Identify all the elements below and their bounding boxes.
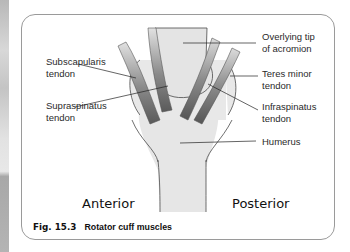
figure-caption: Fig. 15.3Rotator cuff muscles (33, 222, 172, 232)
posterior-label: Posterior (232, 196, 289, 211)
label-teres-minor-tendon: Teres minor tendon (262, 68, 312, 91)
label-subscapularis-tendon: Subscapularis tendon (46, 56, 106, 79)
label-humerus: Humerus (262, 136, 301, 148)
label-supraspinatus-tendon: Supraspinatus tendon (46, 100, 107, 123)
anterior-label: Anterior (82, 196, 134, 211)
figure-number: Fig. 15.3 (33, 222, 76, 232)
figure-title: Rotator cuff muscles (84, 222, 172, 232)
label-overlying-tip-of-acromion: Overlying tip of acromion (262, 31, 315, 54)
label-infraspinatus-tendon: Infraspinatus tendon (262, 101, 316, 124)
